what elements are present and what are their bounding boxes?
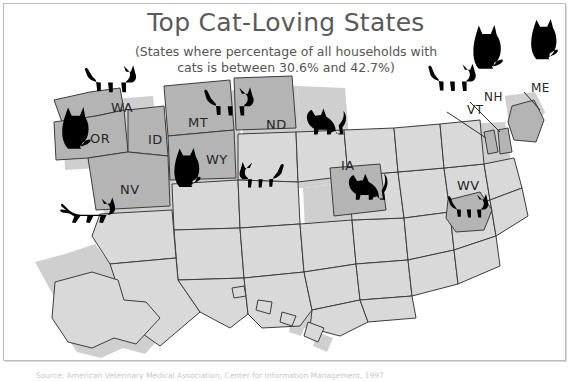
cat-newengland-sitting bbox=[468, 22, 504, 70]
state-label-WY: WY bbox=[206, 152, 228, 167]
cat-idaho-sitting bbox=[170, 145, 202, 187]
state-label-NH: NH bbox=[484, 90, 503, 104]
source-caption: Source: American Veterinary Medical Asso… bbox=[36, 371, 556, 381]
infographic-page: Top Cat-Loving States (States where perc… bbox=[0, 0, 572, 381]
state-label-VT: VT bbox=[467, 103, 484, 117]
cat-washington-walking bbox=[84, 62, 138, 96]
state-ID bbox=[128, 106, 168, 156]
state-label-ND: ND bbox=[266, 117, 287, 132]
state-label-ME: ME bbox=[531, 81, 550, 95]
state-label-NV: NV bbox=[120, 182, 140, 197]
cat-montana-walking bbox=[204, 85, 256, 119]
state-label-WV: WV bbox=[457, 178, 480, 193]
state-label-OR: OR bbox=[90, 131, 110, 146]
cat-washington-sitting bbox=[56, 104, 92, 150]
state-NH bbox=[498, 128, 512, 154]
cat-westvirginia-walking bbox=[447, 192, 489, 220]
cat-dakota-standing bbox=[301, 105, 347, 137]
cat-california-running bbox=[60, 196, 116, 224]
state-label-ID: ID bbox=[148, 132, 163, 147]
state-label-WA: WA bbox=[111, 100, 133, 115]
cat-iowa-standing bbox=[345, 168, 389, 202]
cat-wyoming-walking bbox=[238, 160, 284, 190]
cat-maine-sitting bbox=[527, 16, 559, 60]
